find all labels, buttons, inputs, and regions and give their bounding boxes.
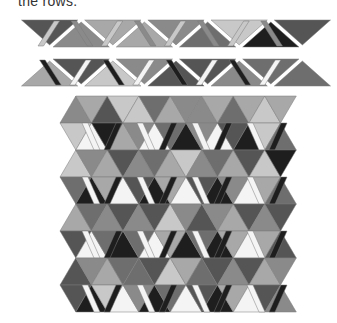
- quilt-illustration: [0, 0, 337, 323]
- quilt-block: [60, 96, 296, 312]
- strip-row-2: [22, 59, 331, 86]
- strip-row-1: [22, 20, 331, 47]
